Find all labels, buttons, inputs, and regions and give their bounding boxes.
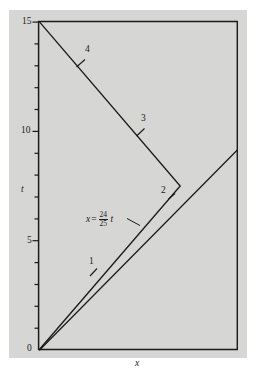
segment-label-4: 4 xyxy=(85,45,90,55)
y-tick-label-15: 15 xyxy=(22,17,32,27)
segment-label-2: 2 xyxy=(161,186,166,196)
segment-label-1: 1 xyxy=(89,257,94,267)
equation-denominator: 25 xyxy=(99,220,108,228)
reference-line-24-25 xyxy=(40,150,238,350)
equation-numerator: 24 xyxy=(99,211,108,219)
segment-tick-marks xyxy=(77,60,176,277)
y-axis-label-t: t xyxy=(21,185,24,195)
segment-tick-3 xyxy=(137,129,145,137)
y-axis-ticks xyxy=(33,22,39,328)
equation-leader-line xyxy=(127,219,140,226)
x-axis-label-x: x xyxy=(135,359,139,369)
segment-tick-1 xyxy=(90,269,97,277)
plot-canvas xyxy=(0,0,256,377)
segment-tick-4 xyxy=(77,60,86,68)
equation-equals-sign: = xyxy=(91,215,96,225)
equation-fraction: 24 25 xyxy=(99,211,108,229)
equation-trailing-variable: t xyxy=(111,215,114,225)
segment-label-3: 3 xyxy=(141,114,146,124)
equation-lhs: x xyxy=(86,215,90,225)
y-tick-label-10: 10 xyxy=(21,126,31,136)
plot-frame xyxy=(38,21,238,350)
segment-tick-2 xyxy=(169,194,176,200)
y-tick-label-5: 5 xyxy=(27,236,32,246)
spacetime-diagram-figure: 15 10 5 0 t x 1 2 3 4 x = 24 25 t xyxy=(0,0,256,377)
y-tick-label-0: 0 xyxy=(27,344,32,354)
worldline-path xyxy=(40,22,181,349)
equation-label: x = 24 25 t xyxy=(86,211,113,229)
